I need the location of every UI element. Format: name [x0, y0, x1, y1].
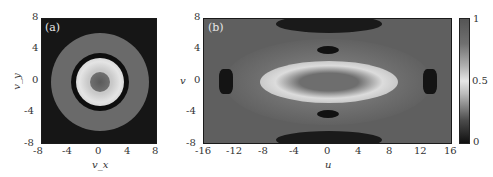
xtick: 0 — [95, 145, 101, 156]
core-disk — [90, 72, 110, 92]
bottom-small-blob — [317, 110, 339, 118]
ytick: 8 — [194, 11, 200, 22]
right-dark-blob — [423, 69, 437, 94]
xtick: -12 — [226, 145, 242, 156]
panel-b-label: (b) — [208, 21, 224, 34]
ytick: 0 — [32, 74, 38, 85]
xtick: 4 — [124, 145, 130, 156]
left-dark-blob — [219, 69, 233, 94]
panel-a-ylabel: v_y — [11, 73, 22, 89]
top-small-blob — [317, 46, 339, 54]
xtick: 8 — [152, 145, 158, 156]
colorbar-tick-min: 0 — [473, 136, 479, 147]
ytick: -4 — [24, 105, 34, 116]
xtick: -8 — [258, 145, 268, 156]
colorbar — [459, 18, 470, 144]
xtick: -8 — [33, 145, 43, 156]
panel-a-heatmap: (a) — [41, 18, 157, 144]
ytick: 8 — [32, 11, 38, 22]
xtick: 16 — [444, 145, 457, 156]
panel-a-label: (a) — [45, 21, 60, 34]
top-dark-band — [276, 18, 382, 33]
bottom-dark-band — [276, 131, 382, 144]
xtick: 8 — [386, 145, 392, 156]
xtick: -4 — [289, 145, 299, 156]
colorbar-tick-mid: 0.5 — [472, 75, 488, 86]
ytick: 0 — [194, 74, 200, 85]
bright-ellipse — [260, 61, 398, 103]
panel-b-ylabel: v — [180, 75, 186, 86]
ytick: 4 — [32, 42, 38, 53]
panel-b-xlabel: u — [325, 159, 331, 170]
ytick: -4 — [186, 105, 196, 116]
colorbar-tick-max: 1 — [473, 13, 479, 24]
xtick: 0 — [324, 145, 330, 156]
panel-b-heatmap: (b) — [203, 18, 452, 144]
xtick: -16 — [195, 145, 211, 156]
panel-a-xlabel: v_x — [92, 159, 108, 170]
ytick: 4 — [194, 42, 200, 53]
xtick: 12 — [414, 145, 427, 156]
xtick: 4 — [355, 145, 361, 156]
xtick: -4 — [62, 145, 72, 156]
